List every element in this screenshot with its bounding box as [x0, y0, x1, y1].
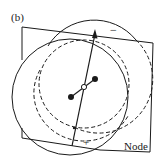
- orbit-circle-upper-solid: [48, 20, 136, 46]
- axis-arrowhead-icon: [92, 29, 98, 39]
- diagram-canvas: [0, 0, 164, 163]
- intersection-dot: [73, 127, 75, 129]
- node-label: Node: [124, 141, 148, 152]
- panel-label: (b): [11, 12, 24, 23]
- atom-right: [92, 76, 98, 82]
- atom-left: [68, 94, 74, 100]
- minus-sign-label: −: [110, 24, 117, 36]
- nodal-plane: [22, 27, 153, 152]
- center-of-mass: [81, 84, 86, 89]
- plus-sign-label: +: [83, 137, 89, 148]
